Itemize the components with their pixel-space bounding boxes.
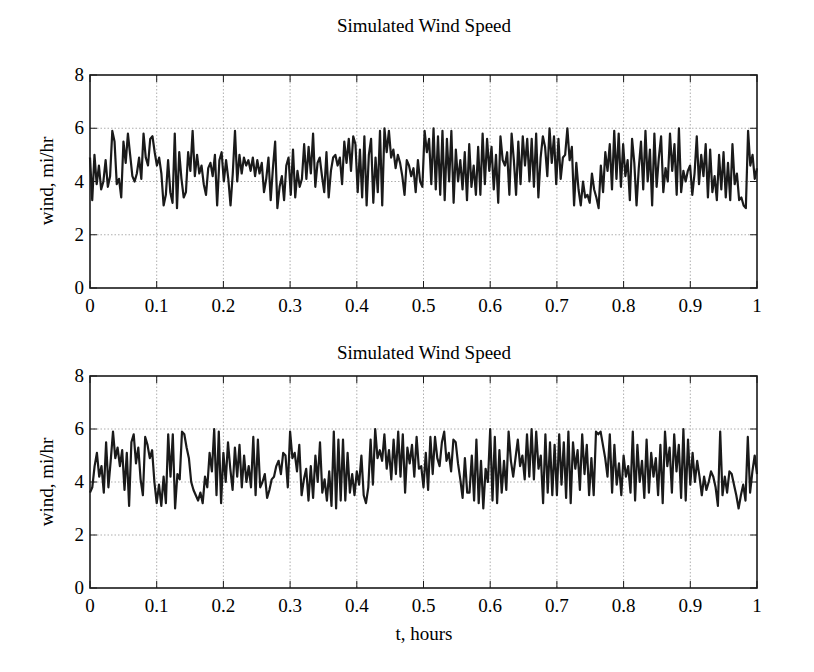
y-tick-label: 4: [75, 171, 85, 192]
top-plot-title: Simulated Wind Speed: [337, 15, 512, 36]
wind-speed-line: [90, 128, 757, 208]
x-tick-label: 0.3: [278, 295, 302, 316]
figure: Simulated Wind Speed wind, mi/hr 00.10.2…: [0, 0, 814, 672]
x-tick-label: 0.3: [278, 595, 302, 616]
x-tick-label: 1: [752, 295, 762, 316]
x-tick-label: 0.8: [612, 595, 636, 616]
y-tick-label: 2: [75, 224, 85, 245]
y-tick-label: 0: [75, 577, 85, 598]
x-tick-label: 0.9: [678, 595, 702, 616]
x-tick-label: 0.7: [545, 295, 569, 316]
y-tick-label: 8: [75, 365, 85, 386]
y-tick-label: 0: [75, 277, 85, 298]
x-tick-label: 1: [752, 595, 762, 616]
bottom-plot-wind-series: [90, 429, 757, 509]
y-tick-label: 6: [75, 117, 85, 138]
bottom-subplot: Simulated Wind Speed wind, mi/hr t, hour…: [36, 342, 762, 644]
top-plot-y-axis-label: wind, mi/hr: [36, 136, 57, 225]
x-tick-label: 0: [85, 595, 95, 616]
x-tick-label: 0.5: [412, 595, 436, 616]
x-tick-label: 0.7: [545, 595, 569, 616]
x-tick-label: 0.4: [345, 595, 369, 616]
x-tick-label: 0.8: [612, 295, 636, 316]
x-tick-label: 0.2: [212, 295, 236, 316]
x-tick-label: 0.1: [145, 295, 169, 316]
x-tick-label: 0: [85, 295, 95, 316]
y-tick-label: 8: [75, 64, 85, 85]
x-tick-label: 0.4: [345, 295, 369, 316]
x-tick-label: 0.1: [145, 595, 169, 616]
y-tick-label: 4: [75, 471, 85, 492]
bottom-plot-y-axis-label: wind, mi/hr: [36, 437, 57, 526]
x-axis-label: t, hours: [396, 623, 453, 644]
y-tick-label: 6: [75, 418, 85, 439]
y-tick-label: 2: [75, 524, 85, 545]
bottom-plot-title: Simulated Wind Speed: [337, 342, 512, 363]
x-tick-label: 0.6: [478, 595, 502, 616]
x-tick-label: 0.2: [212, 595, 236, 616]
top-plot-wind-series: [90, 128, 757, 208]
wind-speed-line: [90, 429, 757, 509]
x-tick-label: 0.9: [678, 295, 702, 316]
x-tick-label: 0.6: [478, 295, 502, 316]
top-subplot: Simulated Wind Speed wind, mi/hr 00.10.2…: [36, 15, 762, 316]
x-tick-label: 0.5: [412, 295, 436, 316]
